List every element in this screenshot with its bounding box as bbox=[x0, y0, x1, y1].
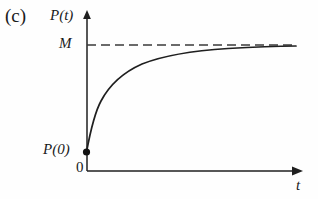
initial-value-label: P(0) bbox=[43, 142, 70, 157]
x-axis-label: t bbox=[296, 178, 300, 193]
origin-label: 0 bbox=[76, 160, 84, 175]
y-axis-arrowhead bbox=[83, 10, 91, 19]
y-axis-label: P(t) bbox=[50, 8, 73, 23]
x-axis-arrowhead bbox=[292, 167, 303, 176]
initial-value-point-marker bbox=[83, 148, 90, 155]
growth-curve bbox=[87, 46, 297, 152]
panel-letter-label: (c) bbox=[5, 6, 26, 25]
asymptote-label-m: M bbox=[59, 36, 72, 51]
plot-canvas bbox=[0, 0, 318, 199]
figure-panel: (c) P(t) M P(0) 0 t bbox=[0, 0, 318, 199]
